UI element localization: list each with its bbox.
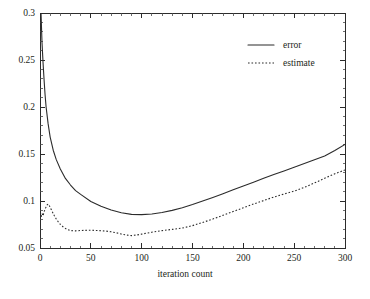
x-tick-label: 50 [86, 253, 96, 263]
y-tick-label: 0.3 [23, 8, 35, 18]
x-axis-tick-labels: 050100150200250300 [38, 253, 353, 263]
y-tick-label: 0.15 [18, 149, 35, 159]
y-tick-label: 0.25 [18, 55, 35, 65]
legend-label-estimate: estimate [283, 58, 315, 68]
line-chart: 050100150200250300 0.050.10.150.20.250.3… [0, 0, 370, 299]
x-tick-label: 300 [338, 253, 353, 263]
data-series-layer [40, 0, 345, 236]
x-tick-label: 150 [185, 253, 200, 263]
series-error [40, 0, 345, 215]
y-tick-label: 0.05 [18, 243, 35, 253]
y-axis-minor-ticks [40, 22, 345, 238]
x-tick-label: 0 [38, 253, 43, 263]
x-tick-label: 250 [287, 253, 302, 263]
x-tick-label: 200 [236, 253, 251, 263]
x-tick-label: 100 [135, 253, 150, 263]
y-tick-label: 0.1 [23, 196, 35, 206]
legend-label-error: error [283, 40, 302, 50]
figure-container: 050100150200250300 0.050.10.150.20.250.3… [0, 0, 370, 299]
y-tick-label: 0.2 [23, 102, 35, 112]
y-axis-tick-labels: 0.050.10.150.20.250.3 [18, 8, 35, 253]
series-estimate [40, 170, 345, 236]
x-axis-title: iteration count [157, 269, 212, 279]
chart-legend: errorestimate [248, 40, 315, 68]
